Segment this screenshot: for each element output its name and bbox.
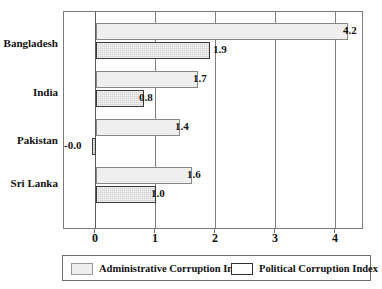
tick-label-4: 4 — [325, 232, 345, 244]
bar-polit-india — [96, 90, 144, 107]
value-label-polit-bangladesh: 1.9 — [213, 44, 227, 55]
bar-polit-pakistan — [92, 138, 96, 155]
gridline-4 — [335, 12, 336, 228]
category-label-india: India — [33, 87, 58, 98]
value-label-admin-india: 1.7 — [193, 73, 207, 84]
legend-label-administrative: Administrative Corruption Index — [99, 263, 249, 274]
legend: Administrative Corruption Index Politica… — [62, 255, 371, 281]
legend-entry-administrative: Administrative Corruption Index — [71, 261, 249, 276]
tick-label-3: 3 — [265, 232, 285, 244]
bar-polit-sri-lanka — [96, 186, 156, 203]
value-label-admin-sri-lanka: 1.6 — [187, 169, 201, 180]
legend-swatch-political-icon — [231, 263, 253, 275]
corruption-index-bar-chart: Bangladesh India Pakistan Sri Lanka 4.2 … — [0, 0, 382, 289]
tick-label-0: 0 — [85, 232, 105, 244]
value-label-admin-pakistan: 1.4 — [175, 121, 189, 132]
bar-admin-bangladesh — [96, 23, 348, 40]
value-label-polit-sri-lanka: 1.0 — [151, 188, 165, 199]
category-label-sri-lanka: Sri Lanka — [11, 178, 58, 189]
value-label-polit-pakistan: -0.0 — [64, 140, 81, 151]
bar-polit-bangladesh — [96, 42, 210, 59]
category-axis: Bangladesh India Pakistan Sri Lanka — [0, 0, 58, 229]
value-label-polit-india: 0.8 — [139, 92, 153, 103]
tick-label-1: 1 — [145, 232, 165, 244]
category-label-pakistan: Pakistan — [17, 135, 58, 146]
value-label-admin-bangladesh: 4.2 — [343, 25, 357, 36]
bar-admin-pakistan — [96, 119, 180, 136]
legend-entry-political: Political Corruption Index — [231, 261, 378, 276]
category-label-bangladesh: Bangladesh — [4, 38, 58, 49]
tick-label-2: 2 — [205, 232, 225, 244]
legend-label-political: Political Corruption Index — [259, 263, 378, 274]
legend-swatch-administrative-icon — [71, 263, 93, 275]
bar-admin-india — [96, 71, 198, 88]
gridline-3 — [275, 12, 276, 228]
bar-admin-sri-lanka — [96, 167, 192, 184]
